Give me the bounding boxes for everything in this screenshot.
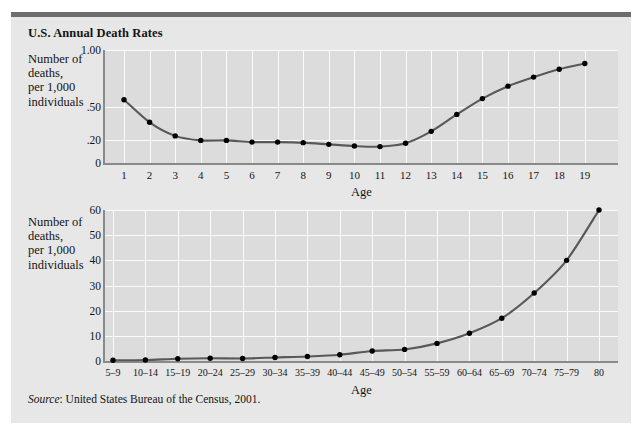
data-point	[564, 258, 569, 263]
data-point	[143, 357, 148, 362]
series-line	[113, 210, 599, 360]
data-point	[272, 355, 277, 360]
data-point	[434, 341, 439, 346]
data-point	[499, 316, 504, 321]
data-point	[337, 352, 342, 357]
series-layer	[11, 12, 631, 423]
data-point	[208, 356, 213, 361]
data-point	[402, 347, 407, 352]
data-point	[596, 207, 601, 212]
data-point	[532, 290, 537, 295]
data-point	[240, 356, 245, 361]
data-point	[110, 358, 115, 363]
figure-panel: U.S. Annual Death Rates Number of deaths…	[11, 12, 631, 423]
data-point	[467, 331, 472, 336]
data-point	[175, 356, 180, 361]
data-point	[370, 348, 375, 353]
data-point	[305, 354, 310, 359]
